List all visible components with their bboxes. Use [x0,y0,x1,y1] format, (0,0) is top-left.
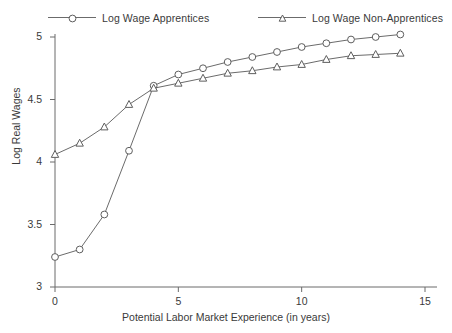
data-point-triangle [397,49,404,56]
chart-container: Log Wage Apprentices Log Wage Non-Appren… [0,0,452,333]
data-point-triangle [125,101,132,108]
data-point-circle [249,54,256,61]
data-point-circle [175,71,182,78]
legend-label-apprentices: Log Wage Apprentices [102,12,209,24]
x-axis-title: Potential Labor Market Experience (in ye… [0,311,452,323]
data-point-circle [200,65,207,72]
y-tick-label: 3.5 [8,218,42,230]
circle-marker-icon [48,11,96,25]
data-point-triangle [51,151,58,158]
y-tick-label: 3 [8,280,42,292]
legend-item-non-apprentices[interactable]: Log Wage Non-Apprentices [258,8,443,28]
data-point-circle [274,49,281,56]
x-tick-label: 10 [287,295,317,307]
triangle-marker-icon [258,11,306,25]
legend-item-apprentices[interactable]: Log Wage Apprentices [48,8,209,28]
data-point-triangle [76,139,83,146]
data-point-circle [298,44,305,51]
series-line-0 [55,35,400,258]
x-tick-label: 0 [40,295,70,307]
chart-legend: Log Wage Apprentices Log Wage Non-Appren… [0,8,452,28]
data-point-circle [101,211,108,218]
data-point-circle [323,40,330,47]
data-point-circle [397,31,404,38]
data-point-circle [348,36,355,43]
data-point-circle [224,59,231,66]
x-tick-label: 15 [410,295,440,307]
data-point-circle [76,246,83,253]
axis-layer [50,34,437,292]
y-axis-title: Log Real Wages [10,66,22,186]
data-point-circle [372,34,379,41]
data-point-circle [52,254,59,261]
legend-label-non-apprentices: Log Wage Non-Apprentices [312,12,443,24]
data-point-circle [126,147,133,154]
x-tick-label: 5 [163,295,193,307]
plot-area [0,0,452,333]
series-layer [51,31,404,260]
y-tick-label: 5 [8,30,42,42]
